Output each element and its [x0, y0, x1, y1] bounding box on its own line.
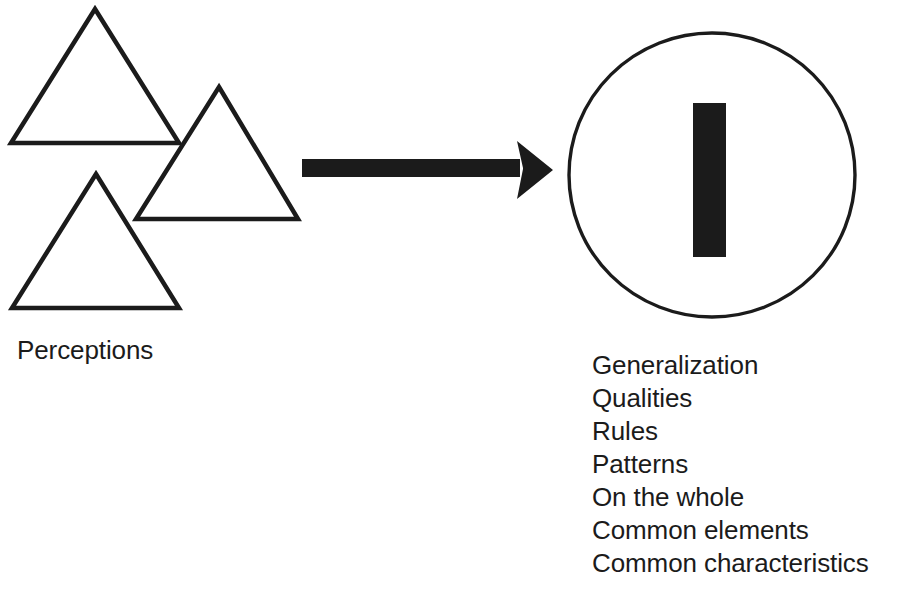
list-item: On the whole	[592, 481, 869, 514]
list-item: Rules	[592, 415, 869, 448]
list-item: Patterns	[592, 448, 869, 481]
list-item: Generalization	[592, 349, 869, 382]
perceptions-label: Perceptions	[17, 334, 153, 367]
list-item: Qualities	[592, 382, 869, 415]
generalization-list: Generalization Qualities Rules Patterns …	[592, 349, 869, 580]
diagram-label-layer: Perceptions Generalization Qualities Rul…	[0, 0, 922, 604]
list-item: Common elements	[592, 514, 869, 547]
list-item: Common characteristics	[592, 547, 869, 580]
diagram-canvas: Perceptions Generalization Qualities Rul…	[0, 0, 922, 604]
